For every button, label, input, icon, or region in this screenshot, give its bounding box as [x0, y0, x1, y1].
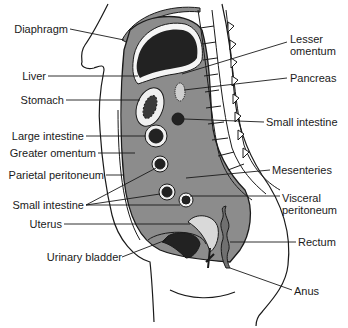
label-greater-omentum: Greater omentum [10, 147, 96, 159]
pancreas-shape [175, 83, 185, 101]
label-anus: Anus [294, 285, 319, 297]
label-pancreas: Pancreas [290, 72, 336, 84]
label-stomach: Stomach [21, 94, 64, 106]
label-lesser-omentum: Lesser omentum [290, 33, 336, 57]
label-small-intestine-right: Small intestine [266, 116, 338, 128]
label-uterus: Uterus [30, 218, 62, 230]
label-parietal-peritoneum: Parietal peritoneum [9, 169, 104, 181]
peritoneum-sagittal-diagram: Diaphragm Liver Stomach Large intestine … [0, 0, 348, 328]
label-large-intestine: Large intestine [12, 130, 84, 142]
label-diaphragm: Diaphragm [14, 23, 68, 35]
label-visceral-peritoneum: Visceral peritoneum [282, 192, 337, 216]
buttock-outline [170, 290, 235, 298]
label-rectum: Rectum [298, 236, 336, 248]
label-small-intestine-left: Small intestine [12, 199, 84, 211]
label-liver: Liver [22, 70, 46, 82]
label-mesenteries: Mesenteries [272, 164, 332, 176]
label-urinary-bladder: Urinary bladder [47, 251, 122, 263]
